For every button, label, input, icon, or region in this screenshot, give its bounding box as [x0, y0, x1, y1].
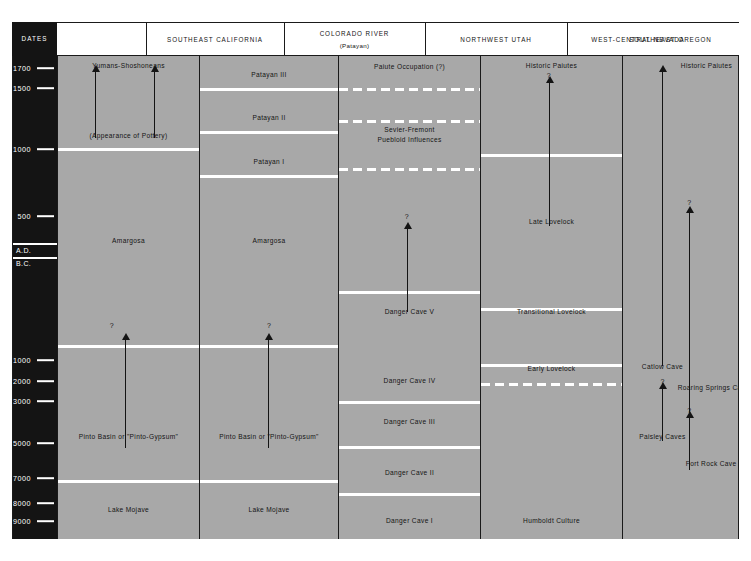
- column-southeast-california: Yumans-Shoshoneans(Appearance of Pottery…: [58, 56, 199, 539]
- continuity-arrow: [95, 70, 96, 138]
- phase-label: Patayan III: [251, 70, 286, 81]
- ad-label: A.D.: [16, 247, 31, 254]
- column-divider-3: [480, 56, 481, 539]
- dates-header-label: DATES: [21, 33, 47, 45]
- ad-era-rule: [12, 243, 57, 245]
- horizon-divider: [339, 446, 480, 449]
- horizon-divider: [339, 493, 480, 496]
- axis-tick-label: 8000: [13, 499, 31, 508]
- continuity-arrow: [407, 227, 408, 312]
- axis-tick-mark: [37, 215, 54, 217]
- horizon-divider-dashed: [339, 120, 480, 123]
- phase-label: Early Lovelock: [528, 364, 576, 375]
- axis-tick-mark: [37, 442, 54, 444]
- horizon-divider: [58, 345, 199, 348]
- column-divider-4: [622, 56, 623, 539]
- column-header-northwest-utah: NORTHWEST UTAH: [425, 23, 567, 57]
- phase-label: Late Lovelock: [529, 217, 574, 228]
- column-southeast-oregon: Historic PaiutesCatlow CaveRoaring Sprin…: [623, 56, 739, 539]
- phase-label: (Appearance of Pottery): [89, 131, 167, 142]
- axis-tick-label: 1000: [13, 356, 31, 365]
- phase-label: Puebloid Influences: [377, 135, 441, 146]
- phase-label: Yumans-Shoshoneans: [92, 61, 165, 72]
- continuity-arrow: [662, 70, 663, 366]
- phase-label: Transitional Lovelock: [517, 307, 586, 318]
- uncertainty-marker: ?: [267, 322, 271, 329]
- column-header-label: SOUTHEAST CALIFORNIA: [167, 34, 263, 46]
- column-colorado-river: Patayan IIIPatayan IIPatayan IAmargosaPi…: [200, 56, 338, 539]
- axis-tick-mark: [37, 502, 54, 504]
- uncertainty-marker: ?: [110, 322, 114, 329]
- horizon-divider-dashed: [339, 168, 480, 171]
- phase-label: Amargosa: [253, 236, 286, 247]
- phase-label: Patayan II: [252, 113, 285, 124]
- dates-header-block: DATES: [12, 22, 57, 56]
- horizon-divider: [481, 154, 622, 157]
- column-divider-dates: [57, 56, 58, 539]
- horizon-divider: [200, 345, 338, 348]
- phase-label: Paiute Occupation (?): [374, 62, 445, 73]
- column-header-label: SOUTHEAST OREGON: [629, 34, 712, 46]
- column-header-label: NORTHWEST UTAH: [460, 34, 531, 46]
- horizon-divider: [200, 480, 338, 483]
- axis-tick-mark: [37, 67, 54, 69]
- horizon-divider: [200, 131, 338, 134]
- horizon-divider-dashed: [339, 88, 480, 91]
- horizon-divider: [339, 291, 480, 294]
- column-divider-1: [199, 56, 200, 539]
- phase-label: Roaring Springs Cave: [678, 383, 739, 394]
- column-header-sublabel: (Patayan): [340, 40, 370, 51]
- uncertainty-marker: ?: [687, 407, 691, 414]
- axis-tick-label: 3000: [13, 397, 31, 406]
- phase-label: Amargosa: [112, 236, 145, 247]
- phase-label: Historic Paiutes: [526, 61, 577, 72]
- axis-tick-label: 9000: [13, 517, 31, 526]
- chart-body-band: 1700150010005001000200030005000700080009…: [12, 56, 739, 539]
- chronology-chart: SOUTHEAST CALIFORNIA COLORADO RIVER (Pat…: [0, 0, 751, 561]
- continuity-arrow: [689, 211, 690, 436]
- dates-axis-column: 1700150010005001000200030005000700080009…: [12, 56, 57, 539]
- phase-label: Pinto Basin or "Pinto-Gypsum": [219, 432, 319, 443]
- phase-label: Lake Mojave: [248, 505, 289, 516]
- phase-label: Danger Cave V: [385, 307, 435, 318]
- phase-label: Patayan I: [253, 157, 284, 168]
- phase-label: Fort Rock Cave: [686, 459, 737, 470]
- continuity-arrow: [154, 70, 155, 138]
- axis-tick-mark: [37, 477, 54, 479]
- phase-label: Catlow Cave: [642, 362, 683, 373]
- phase-label: Paisley Caves: [639, 432, 685, 443]
- phase-label: Danger Cave I: [386, 516, 433, 527]
- phase-label: Danger Cave IV: [384, 376, 436, 387]
- column-header-label: COLORADO RIVER: [320, 28, 390, 40]
- horizon-divider: [200, 175, 338, 178]
- axis-tick-mark: [37, 380, 54, 382]
- axis-tick-label: 1500: [13, 84, 31, 93]
- axis-tick-label: 500: [18, 212, 32, 221]
- axis-tick-label: 7000: [13, 474, 31, 483]
- chart-left-edge: [12, 56, 13, 539]
- horizon-divider: [200, 88, 338, 91]
- axis-tick-mark: [37, 520, 54, 522]
- axis-tick-mark: [37, 359, 54, 361]
- horizon-divider: [58, 480, 199, 483]
- axis-tick-mark: [37, 87, 54, 89]
- axis-tick-label: 5000: [13, 439, 31, 448]
- uncertainty-marker: ?: [547, 72, 551, 79]
- column-header-colorado-river: COLORADO RIVER (Patayan): [284, 23, 425, 57]
- axis-tick-label: 1000: [13, 145, 31, 154]
- uncertainty-marker: ?: [660, 378, 664, 385]
- dates-header-label-wrap: DATES: [12, 22, 57, 56]
- phase-label: Lake Mojave: [108, 505, 149, 516]
- uncertainty-marker: ?: [687, 199, 691, 206]
- bc-era-rule: [12, 257, 57, 259]
- column-divider-2: [338, 56, 339, 539]
- bc-label: B.C.: [16, 260, 31, 267]
- column-west-central-nevada: Historic PaiutesLate LovelockTransitiona…: [481, 56, 622, 539]
- horizon-divider: [58, 148, 199, 151]
- phase-label: Pinto Basin or "Pinto-Gypsum": [79, 432, 179, 443]
- continuity-arrow: [549, 81, 550, 226]
- axis-tick-mark: [37, 400, 54, 402]
- phase-label: Historic Paiutes: [681, 61, 732, 72]
- phase-label: Humboldt Culture: [523, 516, 580, 527]
- column-header-southeast-oregon: SOUTHEAST OREGON: [602, 23, 739, 57]
